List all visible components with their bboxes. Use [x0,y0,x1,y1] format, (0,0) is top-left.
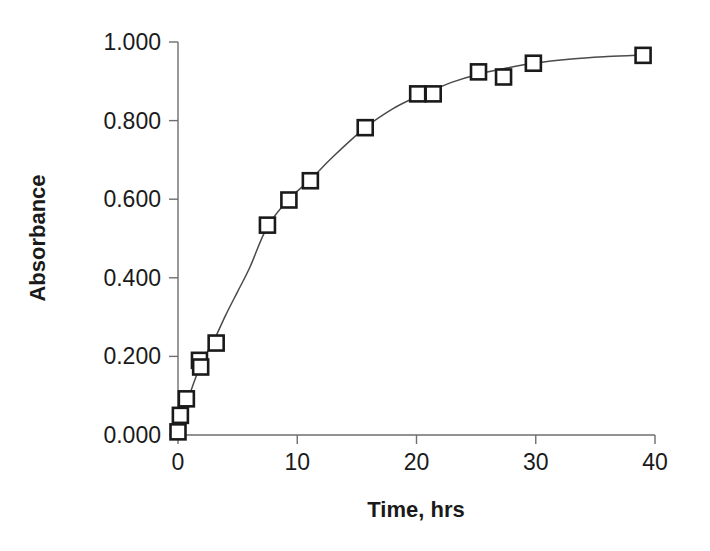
absorbance-vs-time-chart: 0.0000.2000.4000.6000.8001.000 010203040… [0,0,710,551]
x-axis-ticks [178,435,655,444]
data-point-marker [171,424,186,439]
data-point-marker [193,360,208,375]
data-point-marker [471,64,486,79]
x-axis-title: Time, hrs [367,497,464,522]
data-point-markers [171,48,651,440]
y-axis-title: Absorbance [25,174,50,301]
x-tick-label: 30 [523,449,549,475]
y-axis-tick-labels: 0.0000.2000.4000.6000.8001.000 [103,29,161,448]
x-tick-label: 10 [284,449,310,475]
data-point-marker [303,173,318,188]
fit-curve [178,55,643,431]
data-point-marker [526,56,541,71]
data-point-marker [179,391,194,406]
data-point-marker [426,86,441,101]
data-point-marker [636,48,651,63]
y-tick-label: 0.600 [103,186,161,212]
y-tick-label: 0.200 [103,343,161,369]
y-tick-label: 0.800 [103,108,161,134]
y-tick-label: 0.400 [103,265,161,291]
data-point-marker [410,86,425,101]
data-point-marker [260,218,275,233]
x-axis-tick-labels: 010203040 [172,449,668,475]
x-tick-label: 20 [404,449,430,475]
chart-figure: 0.0000.2000.4000.6000.8001.000 010203040… [0,0,710,551]
data-point-marker [281,192,296,207]
y-tick-label: 1.000 [103,29,161,55]
x-tick-label: 40 [642,449,668,475]
y-axis-ticks [169,42,178,435]
data-point-marker [209,336,224,351]
data-point-marker [358,120,373,135]
y-tick-label: 0.000 [103,422,161,448]
data-point-marker [173,408,188,423]
data-point-marker [496,69,511,84]
x-tick-label: 0 [172,449,185,475]
